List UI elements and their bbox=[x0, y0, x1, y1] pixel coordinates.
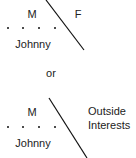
bottom-right-label-outside: Outside bbox=[88, 105, 126, 117]
top-dot-2 bbox=[22, 27, 24, 29]
top-left-label-m: M bbox=[27, 8, 36, 20]
top-right-label-f: F bbox=[75, 8, 82, 20]
divider-lines bbox=[0, 0, 136, 158]
bottom-diagonal-line bbox=[49, 98, 87, 158]
bottom-right-label-interests: Interests bbox=[88, 119, 130, 131]
bottom-dot-3 bbox=[38, 126, 40, 128]
bottom-dot-2 bbox=[22, 126, 24, 128]
top-dot-3 bbox=[38, 27, 40, 29]
top-dot-4 bbox=[54, 27, 56, 29]
bottom-dot-4 bbox=[54, 126, 56, 128]
top-dot-1 bbox=[7, 27, 9, 29]
top-name-label-johnny: Johnny bbox=[15, 38, 50, 50]
bottom-name-label-johnny: Johnny bbox=[15, 137, 50, 149]
or-separator-label: or bbox=[46, 67, 56, 79]
bottom-dot-1 bbox=[7, 126, 9, 128]
bottom-left-label-m: M bbox=[27, 106, 36, 118]
